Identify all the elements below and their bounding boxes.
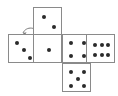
pip [82, 54, 86, 58]
pip [42, 15, 46, 19]
front-face [33, 34, 62, 63]
pip [69, 54, 73, 58]
pip [106, 43, 110, 47]
back-face [86, 34, 115, 63]
top-face [33, 7, 62, 36]
pip [106, 53, 110, 57]
pip [69, 84, 73, 88]
pip [82, 70, 86, 74]
pip [100, 53, 104, 57]
pip [69, 41, 73, 45]
pip [28, 56, 32, 60]
pip [82, 41, 86, 45]
dice-net-diagram [0, 0, 118, 96]
pip [82, 84, 86, 88]
pip [15, 41, 19, 45]
pip [22, 48, 26, 52]
pip [69, 70, 73, 74]
bottom-face [62, 63, 91, 92]
pip [47, 48, 51, 52]
pip [52, 25, 56, 29]
pip [93, 53, 97, 57]
pip [76, 77, 80, 81]
pip [100, 43, 104, 47]
pip [93, 43, 97, 47]
